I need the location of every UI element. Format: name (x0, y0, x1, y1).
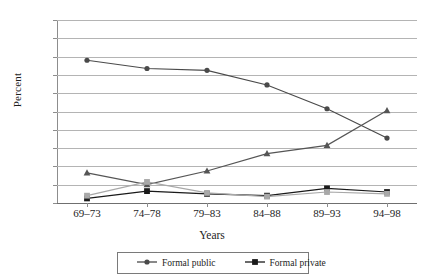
series-formal-private (84, 185, 390, 201)
series-line (87, 60, 387, 138)
data-point-square (384, 191, 390, 197)
data-point-square (144, 179, 150, 185)
data-point-triangle (384, 107, 391, 113)
data-point-circle (264, 82, 269, 87)
series-triangle (84, 107, 391, 187)
data-point-square (264, 194, 270, 200)
series-line (87, 111, 387, 185)
data-point-circle (84, 58, 89, 63)
data-point-triangle (84, 169, 91, 175)
plot-area: 0102030405060708090100 69–7374–7879–8384… (57, 20, 417, 203)
series-formal-public (84, 58, 389, 141)
chart-legend: Formal publicFormal private (117, 252, 309, 274)
circle-marker-icon (136, 257, 158, 269)
x-tick-label: 94–98 (352, 208, 422, 219)
data-point-square (144, 188, 150, 194)
square-marker-icon (244, 257, 266, 269)
data-point-circle (384, 135, 389, 140)
data-point-triangle (324, 142, 331, 148)
legend-label: Formal public (162, 258, 216, 268)
legend-item-formal-private[interactable]: Formal private (244, 257, 326, 269)
data-point-square (204, 190, 210, 196)
data-point-square (324, 189, 330, 195)
legend-item-formal-public[interactable]: Formal public (136, 257, 216, 269)
series-layer (57, 20, 417, 203)
data-point-circle (204, 68, 209, 73)
gridline (57, 203, 417, 204)
x-axis-title: Years (0, 229, 424, 241)
y-axis-title: Percent (11, 45, 23, 135)
data-point-circle (324, 106, 329, 111)
y-tick-mark (53, 203, 57, 204)
data-point-circle (144, 66, 149, 71)
legend-label: Formal private (270, 258, 326, 268)
series-line (87, 188, 387, 198)
data-point-square (84, 193, 90, 199)
